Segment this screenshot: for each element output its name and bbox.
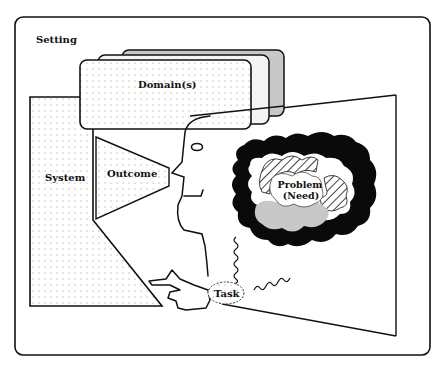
outcome-label: Outcome bbox=[107, 168, 157, 179]
problem-label-line1: Problem bbox=[278, 179, 323, 190]
task-label: Task bbox=[214, 288, 241, 299]
domain-label: Domain(s) bbox=[138, 79, 197, 90]
system-label: System bbox=[45, 172, 86, 183]
task-node: Task bbox=[208, 282, 244, 304]
problem-label-line2: (Need) bbox=[283, 190, 319, 201]
domain-stack: Domain(s) bbox=[80, 50, 284, 129]
setting-label: Setting bbox=[36, 34, 77, 45]
setting-diagram: Setting System Outcome Domain(s) bbox=[0, 0, 445, 373]
domain-card-front bbox=[80, 60, 251, 129]
eye-icon bbox=[192, 144, 203, 151]
problem-blob: Problem (Need) bbox=[232, 132, 376, 246]
